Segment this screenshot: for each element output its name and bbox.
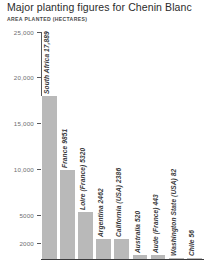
plot-area: South Africa 17,889France 9851Loire (Fra… [41,32,204,259]
bar[interactable] [150,255,167,259]
bar-group: Aude (France) 443 [150,32,168,259]
y-axis-tick-label: 20,000 [14,74,34,81]
bar-label: Chile 56 [188,230,195,256]
bar-label: Aude (France) 443 [152,195,159,254]
bar[interactable] [113,239,130,259]
bar[interactable] [132,255,149,259]
y-axis-tick-label: 5000 [19,212,34,219]
y-axis-tick-label: 15,000 [14,120,34,127]
bar[interactable] [41,96,58,259]
chart-page: Major planting figures for Chenin Blanc … [0,0,208,273]
bar-group: Loire (France) 5320 [77,32,95,259]
y-axis-tick-label: 10,000 [14,166,34,173]
bar-label: Loire (France) 5320 [80,148,87,210]
y-axis-labels: 25,00020,00015,00010,00050002000 [0,0,34,273]
bar-label: France 9851 [62,129,69,168]
bar-group: Washington State (USA) 82 [168,32,186,259]
bar-group: France 9851 [59,32,77,259]
bar[interactable] [59,170,76,259]
bar-label: Australia 520 [134,210,141,252]
bar[interactable] [186,258,203,259]
bar[interactable] [77,212,94,259]
bar-label: South Africa 17,889 [43,32,50,95]
chart-title: Major planting figures for Chenin Blanc [7,1,205,14]
y-axis-tick-label: 2000 [19,240,34,247]
bar-group: Argentina 2462 [95,32,113,259]
bar-group: Australia 520 [132,32,150,259]
bar-group: Chile 56 [186,32,204,259]
bar-group: South Africa 17,889 [41,32,59,259]
bar[interactable] [168,258,185,259]
bar-label: California (USA) 2386 [116,168,123,237]
bar-label: Washington State (USA) 82 [170,169,177,256]
bar-group: California (USA) 2386 [113,32,131,259]
bar[interactable] [95,239,112,259]
bar-label: Argentina 2462 [98,188,105,237]
y-axis-tick-label: 25,000 [14,29,34,36]
x-axis-baseline [41,259,204,260]
